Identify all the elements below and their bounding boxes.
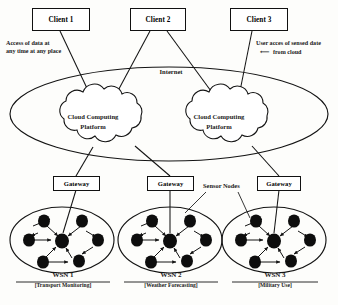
sensor-node <box>184 214 196 227</box>
link-cloud2-gw3 <box>252 146 279 176</box>
gateway-box-1[interactable]: Gateway <box>53 176 100 191</box>
wsn-1-use: [Transport Monitoring] <box>16 282 110 288</box>
sensor-node <box>37 255 49 268</box>
wsn3-edge <box>280 226 293 236</box>
client-2-label: Client 2 <box>146 16 171 24</box>
sensor-node <box>304 233 316 246</box>
sensor-node <box>288 214 300 227</box>
sensor-nodes-label: Sensor Nodes <box>203 182 240 189</box>
annotation-right-line2-row: ⟵ from cloud <box>256 48 321 57</box>
sink-node <box>163 233 177 248</box>
sensor-node <box>76 214 88 227</box>
annotation-right-line2: from cloud <box>271 49 302 55</box>
sensor-node <box>73 254 85 267</box>
wsn2-edge <box>153 247 164 258</box>
annotation-right-line1: User acces of sensed date <box>256 40 321 48</box>
wsn2-edge <box>176 226 189 236</box>
wsn3-edge <box>278 248 284 258</box>
wsn3-edge <box>259 226 270 236</box>
wsn1-edge <box>68 226 81 236</box>
sensor-node <box>131 233 143 246</box>
wsn-1-group <box>10 207 114 273</box>
wsn-2-caption: WSN 2 [Weather Forecasting] <box>124 272 218 288</box>
gateway-2-label: Gateway <box>158 180 184 187</box>
wsn2-edge <box>190 247 201 254</box>
sensor-node <box>92 233 104 246</box>
gateway-box-3[interactable]: Gateway <box>257 176 301 191</box>
link-cloud1-gw1 <box>76 147 93 176</box>
sensor-node <box>23 233 35 246</box>
wsn2-edge <box>174 248 180 258</box>
client-box-1[interactable]: Client 1 <box>32 8 90 31</box>
wsn3-edge <box>294 247 305 254</box>
wsn1-edge <box>47 226 58 236</box>
annotation-left-line1: Access of data at <box>6 40 61 48</box>
annotation-right: User acces of sensed date ⟵ from cloud <box>256 40 321 57</box>
link-gw3-sink3 <box>274 190 279 233</box>
wsn-3-group <box>222 207 326 273</box>
left-arrow-icon: ⟵ <box>260 48 269 55</box>
client-box-3[interactable]: Client 3 <box>230 8 288 31</box>
sensor-nodes-leader-lines <box>185 192 250 218</box>
wsn-3-caption: WSN 3 [Military Use] <box>231 272 319 288</box>
wsn3-edge <box>257 247 268 258</box>
sink-node <box>55 233 69 248</box>
wsn-1-name: WSN 1 <box>16 272 110 280</box>
sink-node <box>267 233 281 248</box>
sensor-node <box>181 254 193 267</box>
wsn1-edge <box>45 247 56 258</box>
cloud-platform-label-2: Cloud Computing Platform <box>179 112 259 132</box>
sensor-node <box>146 214 158 227</box>
wsn2-edge <box>155 226 166 236</box>
sensor-node <box>250 214 262 227</box>
client-3-label: Client 3 <box>247 16 272 24</box>
link-gw1-sink1 <box>63 190 76 233</box>
wsn-2-use: [Weather Forecasting] <box>124 282 218 288</box>
client-1-label: Client 1 <box>49 16 74 24</box>
cloud-1-line2: Platform <box>53 122 133 132</box>
client-box-2[interactable]: Client 2 <box>130 8 186 31</box>
cloud-1-line1: Cloud Computing <box>53 112 133 122</box>
wsn-1-nodes <box>23 214 104 268</box>
gateway-3-label: Gateway <box>266 180 292 187</box>
leader-line-left <box>185 192 206 213</box>
sensor-node <box>200 233 212 246</box>
sensor-node <box>249 255 261 268</box>
annotation-left: Access of data at any time at any place <box>6 40 61 56</box>
wsn1-edge <box>66 248 72 258</box>
cloud-2-line2: Platform <box>179 122 259 132</box>
diagram-canvas: Client 1 Client 2 Client 3 Access of dat… <box>0 0 338 305</box>
leader-line-right <box>238 192 250 218</box>
wsn-2-name: WSN 2 <box>124 272 218 280</box>
sensor-node <box>285 254 297 267</box>
wsn-3-use: [Military Use] <box>231 282 319 288</box>
wsn-3-name: WSN 3 <box>231 272 319 280</box>
internet-label: Internet <box>150 68 192 75</box>
wsn-1-caption: WSN 1 [Transport Monitoring] <box>16 272 110 288</box>
wsn-2-nodes <box>131 214 212 268</box>
cloud-2-line1: Cloud Computing <box>179 112 259 122</box>
annotation-left-line2: any time at any place <box>6 48 61 56</box>
gateway-box-2[interactable]: Gateway <box>147 176 194 191</box>
sensor-node <box>235 233 247 246</box>
sensor-node <box>145 255 157 268</box>
gateway-1-label: Gateway <box>64 180 90 187</box>
wsn1-edge <box>82 247 93 254</box>
cloud-platform-label-1: Cloud Computing Platform <box>53 112 133 132</box>
sensor-node <box>38 214 50 227</box>
